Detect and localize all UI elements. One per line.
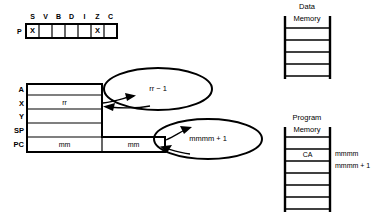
program-memory-title-line2: Memory (267, 126, 347, 134)
bubble-label-increment: mmmm + 1 (154, 135, 262, 143)
flag-mark-s: X (26, 27, 39, 35)
data-memory-title-line2: Memory (267, 15, 347, 23)
data-memory-title-line1: Data (267, 3, 347, 11)
flag-mark-z: X (91, 27, 104, 35)
diagram-canvas: P S V B D I Z C X X A X Y SP PC rr mm mm… (0, 0, 379, 222)
data-memory-ladder (285, 16, 330, 79)
flag-name-c: C (104, 13, 117, 20)
diagram-vector-layer (0, 0, 379, 222)
status-register-label: P (17, 28, 22, 35)
register-label-pc: PC (0, 141, 24, 149)
bubble-label-decrement: rr − 1 (104, 85, 212, 93)
program-memory-cell-ca: CA (285, 151, 330, 158)
register-value-x: rr (27, 99, 102, 106)
program-memory-ladder (285, 127, 330, 212)
flag-name-z: Z (91, 13, 104, 20)
register-value-pc-high: mm (27, 141, 102, 148)
program-memory-address-mmmm-plus-1: mmmm + 1 (335, 162, 370, 169)
register-label-a: A (4, 86, 24, 94)
program-memory-title-line1: Program (267, 114, 347, 122)
register-label-x: X (4, 100, 24, 108)
flag-name-v: V (39, 13, 52, 20)
flag-name-s: S (26, 13, 39, 20)
flag-name-d: D (65, 13, 78, 20)
program-memory-address-mmmm: mmmm (335, 150, 358, 157)
register-label-sp: SP (0, 127, 24, 135)
flag-name-b: B (52, 13, 65, 20)
flag-name-i: I (78, 13, 91, 20)
register-label-y: Y (4, 113, 24, 121)
